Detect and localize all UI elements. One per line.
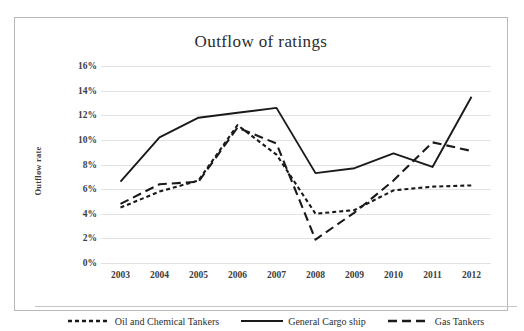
gridline	[101, 263, 491, 264]
plot-area	[101, 66, 491, 263]
x-axis-tick-label: 2008	[306, 270, 325, 280]
x-axis-tick-label: 2009	[345, 270, 364, 280]
x-axis-tick-label: 2005	[189, 270, 208, 280]
legend-swatch-dashed-icon	[388, 317, 430, 325]
chart-legend: Oil and Chemical TankersGeneral Cargo sh…	[29, 310, 523, 331]
y-axis-tick-labels: 0%2%4%6%8%10%12%14%16%	[59, 66, 97, 263]
legend-swatch-solid-icon	[241, 317, 283, 325]
y-axis-tick-label: 2%	[63, 233, 97, 243]
y-axis-tick-label: 14%	[63, 86, 97, 96]
x-axis-tick-label: 2006	[228, 270, 247, 280]
y-axis-tick-label: 10%	[63, 135, 97, 145]
x-axis-tick-label: 2010	[384, 270, 403, 280]
series-lines	[101, 66, 491, 263]
legend-label: Gas Tankers	[435, 316, 484, 327]
y-axis-tick-label: 4%	[63, 209, 97, 219]
legend-label: General Cargo ship	[288, 316, 366, 327]
series-line	[121, 125, 472, 214]
x-axis-tick-label: 2004	[150, 270, 169, 280]
x-axis-tick-label: 2012	[462, 270, 481, 280]
legend-swatch-dotted-icon	[68, 317, 110, 325]
chart-title: Outflow of ratings	[15, 32, 507, 52]
legend-item[interactable]: General Cargo ship	[241, 316, 366, 327]
y-axis-tick-label: 12%	[63, 110, 97, 120]
x-axis-tick-label: 2011	[423, 270, 441, 280]
y-axis-tick-label: 16%	[63, 61, 97, 71]
legend-label: Oil and Chemical Tankers	[115, 316, 219, 327]
y-axis-title: Outflow rate	[33, 126, 43, 216]
x-axis-tick-label: 2003	[111, 270, 130, 280]
y-axis-tick-label: 8%	[63, 160, 97, 170]
chart-container: Outflow of ratings Outflow rate 0%2%4%6%…	[14, 17, 508, 311]
x-axis-tick-label: 2007	[267, 270, 286, 280]
series-line	[121, 97, 472, 182]
y-axis-tick-label: 0%	[63, 258, 97, 268]
legend-item[interactable]: Gas Tankers	[388, 316, 484, 327]
x-axis-tick-labels: 2003200420052006200720082009201020112012	[101, 268, 491, 286]
legend-item[interactable]: Oil and Chemical Tankers	[68, 316, 219, 327]
y-axis-tick-label: 6%	[63, 184, 97, 194]
legend-divider	[35, 306, 517, 307]
